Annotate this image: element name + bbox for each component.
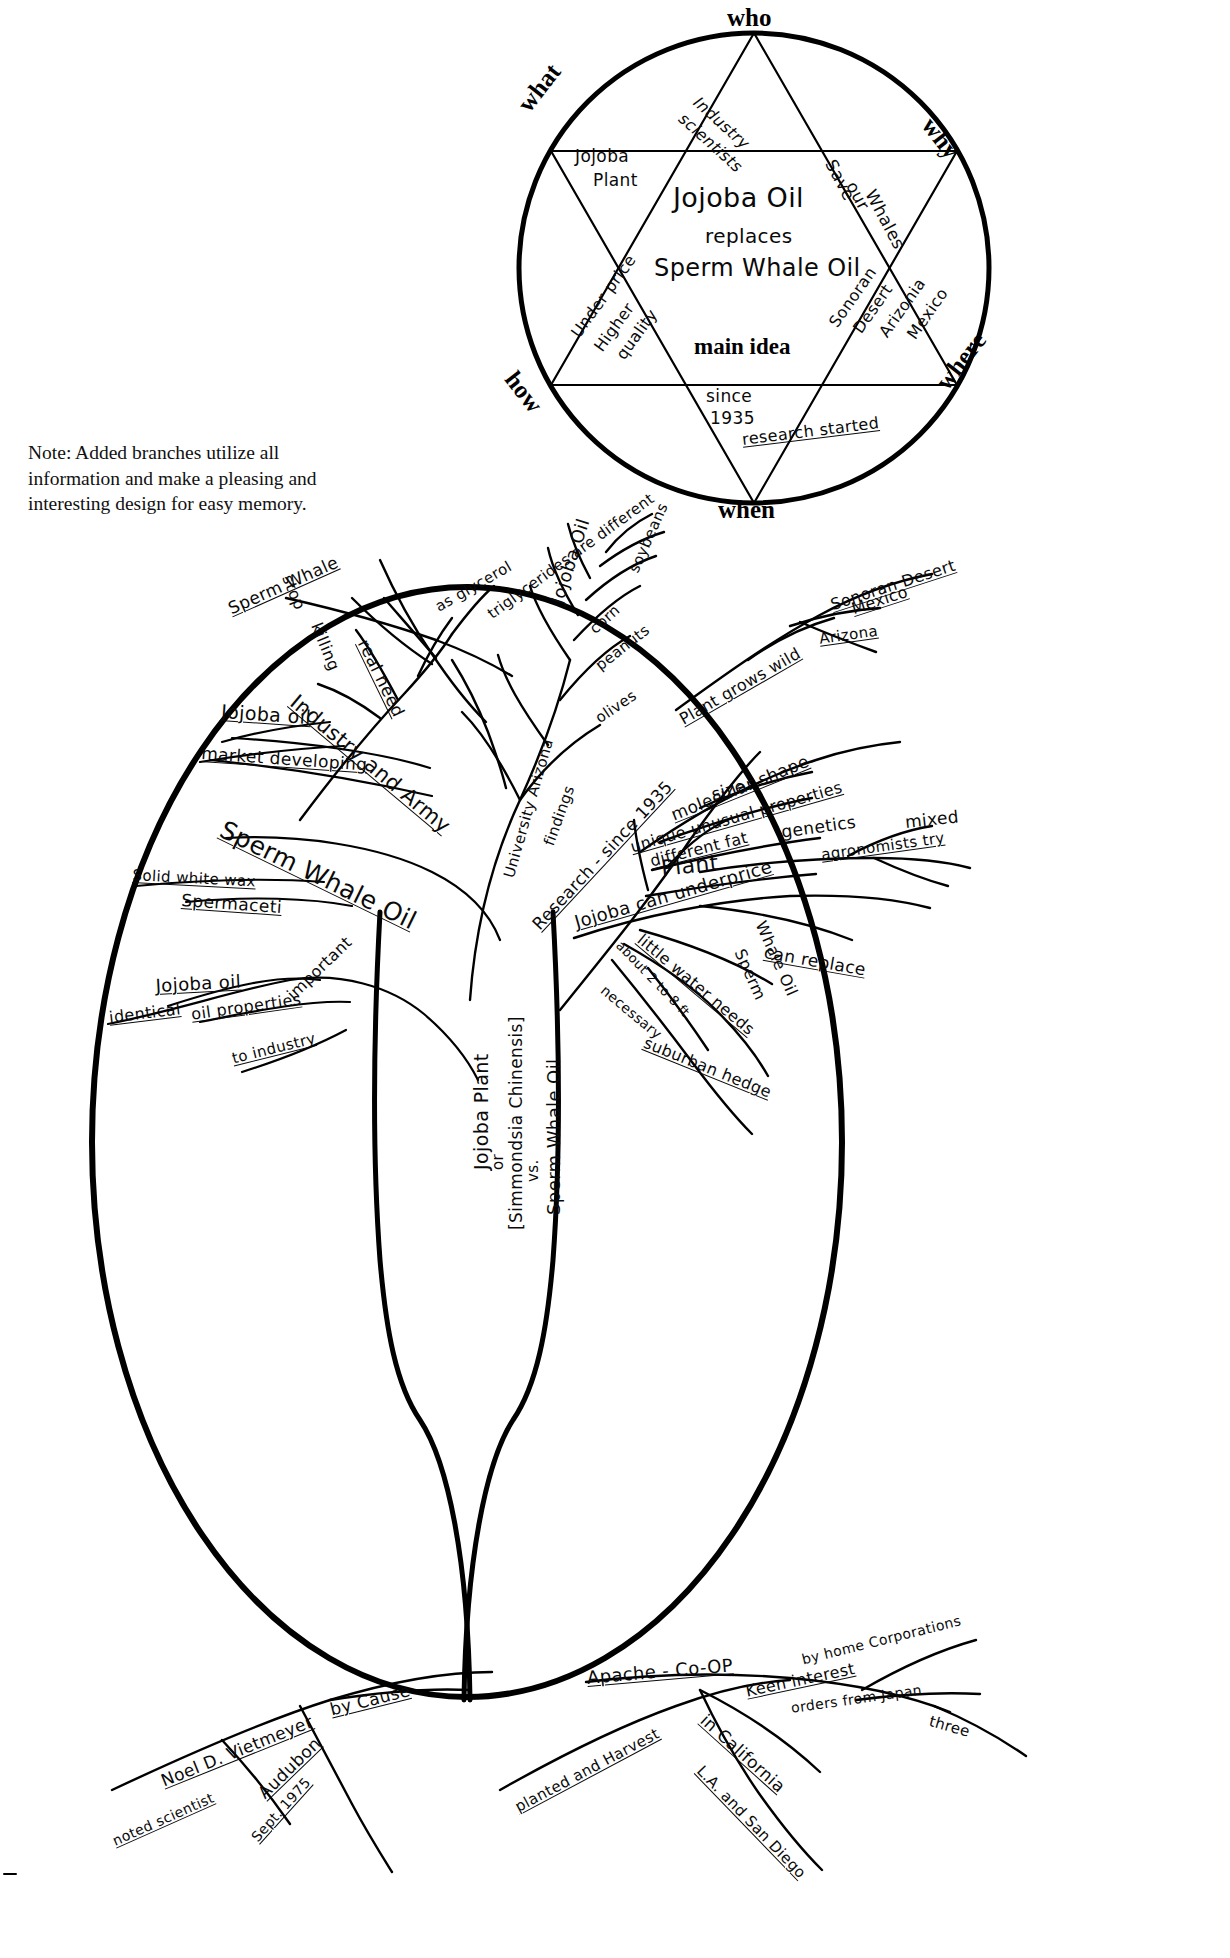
star-center-line-1: Jojoba Oil	[673, 182, 804, 213]
star-what-text-1: Jojoba	[575, 146, 629, 166]
trunk-line-2: or	[489, 1154, 507, 1170]
trunk-line-5: Sperm Whale Oil	[543, 1059, 564, 1215]
star-center-line-3: Sperm Whale Oil	[654, 254, 861, 282]
star-center-line-2: replaces	[705, 224, 793, 248]
note-text: Note: Added branches utilize all informa…	[28, 440, 328, 517]
star-what-text-2: Plant	[593, 170, 638, 190]
branches-left	[108, 722, 500, 1080]
star-when-text-2: 1935	[710, 408, 755, 428]
star-main-idea-label: main idea	[694, 334, 790, 360]
star-label-who: who	[727, 4, 771, 32]
trunk-line-4: vs.	[524, 1159, 542, 1182]
trunk-line-1: Jojoba Plant	[470, 1053, 492, 1170]
tree-trunk	[375, 912, 559, 1700]
trunk-line-3: [Simmondsia Chinensis]	[506, 1016, 526, 1230]
star-when-text-1: since	[706, 386, 752, 406]
branch-label-jojoba-oil-identical: Jojoba oil	[155, 971, 242, 996]
star-label-when: when	[718, 496, 775, 524]
mindmap-worksheet: Note: Added branches utilize all informa…	[0, 0, 1230, 1958]
